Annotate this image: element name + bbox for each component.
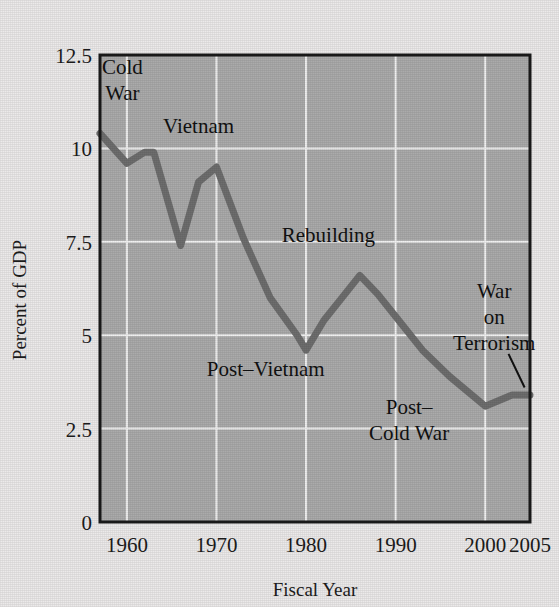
y-tick-5: 5	[82, 324, 93, 348]
x-axis-title: Fiscal Year	[273, 579, 358, 600]
y-axis-title: Percent of GDP	[9, 240, 30, 360]
annotation-rebuilding: Rebuilding	[282, 223, 376, 247]
y-tick-0: 0	[82, 511, 93, 535]
chart-figure: ColdWarVietnamRebuildingPost–VietnamPost…	[0, 0, 559, 607]
y-tick-7.5: 7.5	[66, 231, 92, 255]
x-tick-1990: 1990	[375, 533, 417, 557]
x-tick-2000: 2000	[464, 533, 506, 557]
x-tick-2005: 2005	[509, 533, 551, 557]
annotation-vietnam: Vietnam	[163, 114, 234, 138]
y-tick-10: 10	[71, 137, 92, 161]
chart-svg: ColdWarVietnamRebuildingPost–VietnamPost…	[0, 0, 559, 607]
x-tick-1970: 1970	[195, 533, 237, 557]
y-tick-12.5: 12.5	[55, 44, 92, 68]
plot-area: ColdWarVietnamRebuildingPost–VietnamPost…	[100, 55, 535, 522]
x-tick-1960: 1960	[106, 533, 148, 557]
x-tick-1980: 1980	[285, 533, 327, 557]
y-tick-2.5: 2.5	[66, 418, 92, 442]
annotation-post-vietnam: Post–Vietnam	[207, 357, 325, 381]
